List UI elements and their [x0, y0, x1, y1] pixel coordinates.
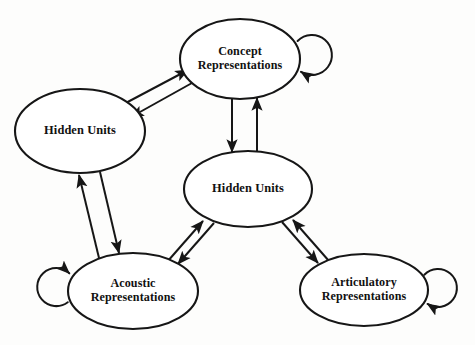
concept-representations-label-line-1: Concept — [218, 43, 262, 57]
self-loop-concept — [298, 35, 332, 75]
node-acoustic-representations[interactable]: AcousticRepresentations — [68, 253, 198, 329]
concept-representations-label-line-2: Representations — [198, 58, 283, 72]
self-loop-articulatory — [424, 269, 457, 307]
node-hidden-units-left[interactable]: Hidden Units — [15, 89, 145, 173]
acoustic-representations-label-line-2: Representations — [91, 290, 176, 304]
node-articulatory-representations[interactable]: ArticulatoryRepresentations — [300, 254, 428, 326]
hidden-units-left-label: Hidden Units — [44, 123, 116, 137]
node-concept-representations[interactable]: ConceptRepresentations — [180, 19, 300, 99]
network-diagram: ConceptRepresentationsHidden UnitsHidden… — [0, 0, 475, 345]
edge-hidden-left-to-acoustic — [100, 172, 119, 253]
acoustic-representations-label-line-1: Acoustic — [110, 275, 156, 289]
articulatory-representations-label: ArticulatoryRepresentations — [322, 274, 407, 303]
node-hidden-units-center[interactable]: Hidden Units — [184, 151, 312, 227]
hidden-units-left-label-line-1: Hidden Units — [44, 123, 116, 137]
self-loop-acoustic — [37, 268, 69, 306]
articulatory-representations-label-line-2: Representations — [322, 289, 407, 303]
articulatory-representations-label-line-1: Articulatory — [331, 274, 397, 288]
hidden-units-center-label: Hidden Units — [212, 181, 284, 195]
edge-hidden-left-to-concept — [122, 70, 188, 105]
hidden-units-center-label-line-1: Hidden Units — [212, 181, 284, 195]
edge-concept-to-hidden-left — [131, 83, 192, 117]
edge-acoustic-to-hidden-left — [79, 175, 99, 258]
nodes-layer: ConceptRepresentationsHidden UnitsHidden… — [15, 19, 428, 329]
diagram-canvas: ConceptRepresentationsHidden UnitsHidden… — [0, 0, 475, 345]
